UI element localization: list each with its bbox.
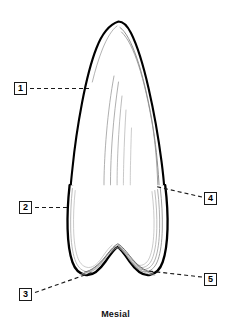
figure-caption: Mesial (0, 309, 231, 319)
tooth-root-group (71, 22, 165, 188)
tooth-illustration (0, 0, 231, 336)
callout-box-3[interactable]: 3 (19, 288, 32, 301)
callout-box-4[interactable]: 4 (204, 192, 217, 205)
leader-line-3 (35, 273, 92, 293)
callout-box-2[interactable]: 2 (19, 201, 32, 214)
callout-box-5[interactable]: 5 (204, 273, 217, 286)
callout-box-1[interactable]: 1 (14, 82, 27, 95)
tooth-crown-group (67, 185, 167, 275)
tooth-diagram-figure: 1 2 3 4 5 Mesial (0, 0, 231, 336)
